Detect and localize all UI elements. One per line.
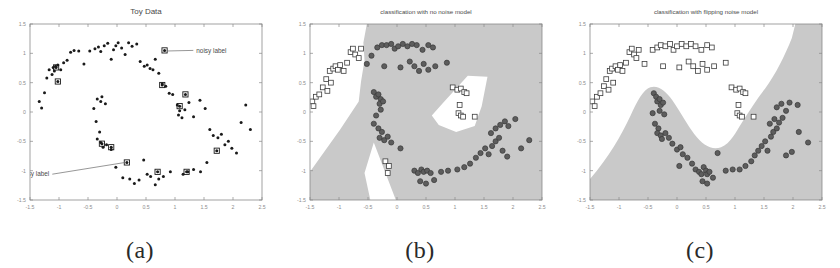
x-tick-label: -0.5 [84, 204, 93, 210]
y-tick-label: 1 [303, 50, 306, 56]
class-circle-marker [483, 146, 488, 151]
x-tick-label: 1.5 [200, 204, 207, 210]
data-point [235, 152, 238, 155]
data-point [59, 68, 62, 71]
data-point [121, 176, 124, 179]
class-circle-marker [678, 145, 683, 150]
class-circle-marker [428, 170, 433, 175]
class-circle-marker [426, 67, 431, 72]
class-circle-marker [743, 163, 748, 168]
data-point [168, 92, 171, 95]
class-square-marker [385, 171, 390, 176]
y-tick-label: 1 [583, 50, 586, 56]
data-point [171, 93, 174, 96]
data-point [205, 161, 208, 164]
class-square-marker [736, 103, 741, 108]
class-circle-marker [730, 167, 735, 172]
data-point [151, 68, 154, 71]
x-tick-label: -1.5 [586, 204, 595, 210]
data-point [48, 68, 51, 71]
class-circle-marker [749, 159, 754, 164]
data-point [100, 95, 103, 98]
x-tick-label: 1.5 [480, 204, 487, 210]
data-point [169, 170, 172, 173]
class-circle-marker [689, 161, 694, 166]
class-circle-marker [364, 61, 369, 66]
data-point [178, 105, 181, 108]
x-tick-label: -1.5 [26, 204, 35, 210]
data-point [177, 113, 180, 116]
data-point [97, 45, 100, 48]
x-tick-label: -1 [617, 204, 622, 210]
caption-b: (b) [280, 237, 560, 264]
class-square-marker [351, 46, 356, 51]
class-circle-marker [445, 168, 450, 173]
data-point [227, 140, 230, 143]
class-square-marker [689, 42, 694, 47]
class-circle-marker [433, 64, 438, 69]
panel-b-plot: classification with no noise model-1.5-1… [280, 0, 560, 224]
class-circle-marker [423, 181, 428, 186]
data-point [208, 128, 211, 131]
data-point [117, 41, 120, 44]
class-square-marker [668, 42, 673, 47]
data-point [216, 136, 219, 139]
class-circle-marker [490, 143, 495, 148]
class-square-marker [699, 47, 704, 52]
three-panel-figure: Toy Data-1.5-1-0.500.511.522.5-1.5-1-0.5… [0, 0, 840, 268]
class-square-marker [629, 46, 634, 51]
x-tick-label: -1 [337, 204, 342, 210]
data-point [223, 143, 226, 146]
data-point [149, 175, 152, 178]
data-point [51, 73, 54, 76]
data-point [199, 170, 202, 173]
class-circle-marker [767, 121, 772, 126]
class-circle-marker [478, 150, 483, 155]
class-circle-marker [662, 112, 667, 117]
class-square-marker [317, 92, 322, 97]
class-square-marker [604, 77, 609, 82]
data-point [146, 173, 149, 176]
data-point [157, 177, 160, 180]
data-point [128, 177, 131, 180]
class-circle-marker [780, 115, 785, 120]
data-point [230, 147, 233, 150]
data-point [149, 67, 152, 70]
class-circle-marker [779, 101, 784, 106]
class-circle-marker [763, 139, 768, 144]
class-circle-marker [783, 108, 788, 113]
class-circle-marker [723, 168, 728, 173]
class-circle-marker [412, 64, 417, 69]
plot-title: Toy Data [130, 7, 162, 16]
y-tick-label: 1.5 [579, 21, 586, 27]
class-circle-marker [677, 163, 682, 168]
data-point [135, 42, 138, 45]
data-point [215, 149, 218, 152]
plot-title: classification with no noise model [380, 8, 471, 15]
y-tick-label: -0.5 [297, 138, 306, 144]
class-square-marker [712, 64, 717, 69]
class-square-marker [383, 159, 388, 164]
x-tick-label: 0 [676, 204, 679, 210]
data-point [104, 102, 107, 105]
data-point [161, 84, 164, 87]
data-point [156, 170, 159, 173]
data-point [244, 103, 247, 106]
class-circle-marker [759, 143, 764, 148]
data-point [240, 121, 243, 124]
class-square-marker [335, 67, 340, 72]
class-square-marker [472, 114, 477, 119]
data-point [56, 80, 59, 83]
data-point [110, 58, 113, 61]
data-point [204, 107, 207, 110]
class-square-marker [341, 69, 346, 74]
class-circle-marker [505, 154, 510, 159]
x-tick-label: 0 [396, 204, 399, 210]
class-circle-marker [421, 61, 426, 66]
class-circle-marker [374, 113, 379, 118]
y-tick-label: 1.5 [299, 21, 306, 27]
class-square-marker [592, 104, 597, 109]
x-tick-label: 2 [232, 204, 235, 210]
class-square-marker [310, 99, 315, 104]
data-point [163, 49, 166, 52]
